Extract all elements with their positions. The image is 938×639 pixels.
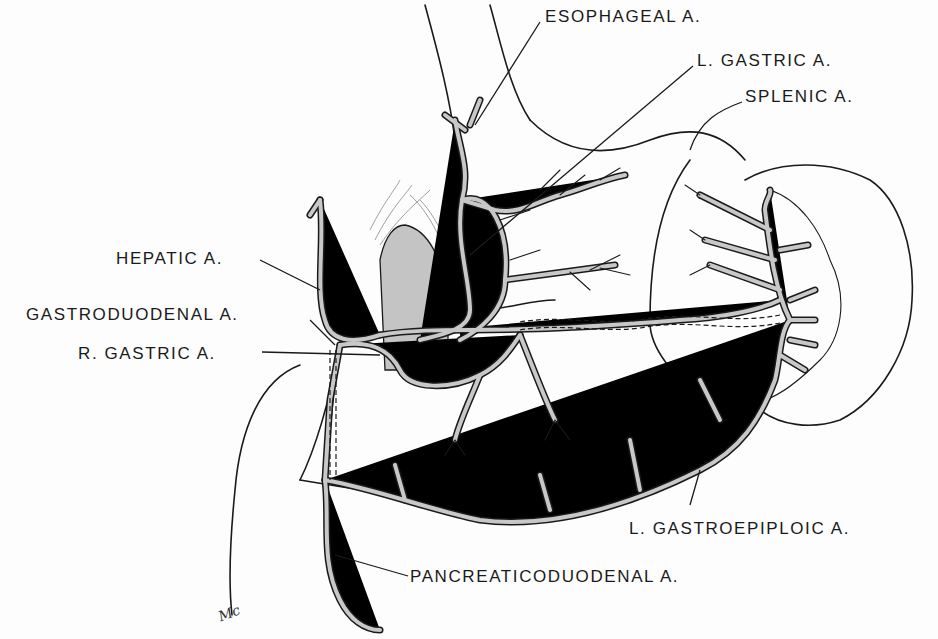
label-pancreaticoduodenal-artery: PANCREATICODUODENAL A. <box>410 568 679 585</box>
label-splenic-artery: SPLENIC A. <box>745 88 854 105</box>
label-left-gastric-artery: L. GASTRIC A. <box>697 52 832 69</box>
label-gastroduodenal-artery: GASTRODUODENAL A. <box>26 306 239 323</box>
label-hepatic-artery: HEPATIC A. <box>116 250 223 267</box>
stomach-arteries-diagram: .outline{fill:none;stroke:#1a1a1a;stroke… <box>0 0 938 639</box>
duodenum <box>230 365 300 615</box>
label-left-gastroepiploic-artery: L. GASTROEPIPLOIC A. <box>629 520 850 537</box>
esophagus <box>425 5 530 140</box>
label-esophageal-artery: ESOPHAGEAL A. <box>545 8 701 25</box>
label-right-gastric-artery: R. GASTRIC A. <box>78 345 216 362</box>
